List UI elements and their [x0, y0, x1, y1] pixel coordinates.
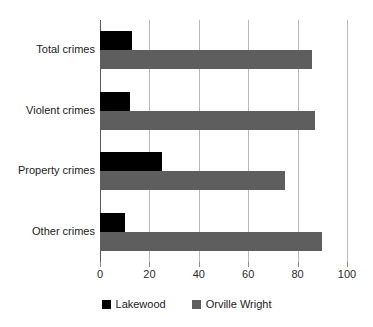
x-tick-mark: [149, 262, 150, 267]
chart-legend: LakewoodOrville Wright: [0, 298, 373, 310]
bar: [100, 92, 130, 111]
legend-swatch-icon: [192, 300, 201, 309]
category-label: Violent crimes: [0, 104, 95, 116]
bar-chart: 020406080100 Total crimesViolent crimesP…: [0, 0, 373, 327]
x-tick-label: 100: [327, 268, 367, 280]
x-tick-label: 80: [278, 268, 318, 280]
x-tick-label: 0: [80, 268, 120, 280]
legend-item[interactable]: Orville Wright: [192, 298, 272, 310]
bar: [100, 50, 312, 69]
x-tick-mark: [100, 262, 101, 267]
bar: [100, 232, 322, 251]
bar: [100, 31, 132, 50]
bar: [100, 111, 315, 130]
x-tick-label: 60: [228, 268, 268, 280]
x-tick-mark: [199, 262, 200, 267]
bar: [100, 171, 285, 190]
plot-area: [100, 20, 347, 262]
legend-label: Lakewood: [116, 298, 166, 310]
category-label: Property crimes: [0, 164, 95, 176]
legend-label: Orville Wright: [206, 298, 272, 310]
legend-item[interactable]: Lakewood: [102, 298, 166, 310]
category-label: Total crimes: [0, 43, 95, 55]
x-tick-label: 20: [129, 268, 169, 280]
x-tick-mark: [347, 262, 348, 267]
gridline: [347, 20, 348, 262]
legend-swatch-icon: [102, 300, 111, 309]
x-tick-label: 40: [179, 268, 219, 280]
bar: [100, 213, 125, 232]
category-label: Other crimes: [0, 225, 95, 237]
chart-title: [0, 0, 373, 5]
x-tick-mark: [248, 262, 249, 267]
bar: [100, 152, 162, 171]
x-tick-mark: [298, 262, 299, 267]
